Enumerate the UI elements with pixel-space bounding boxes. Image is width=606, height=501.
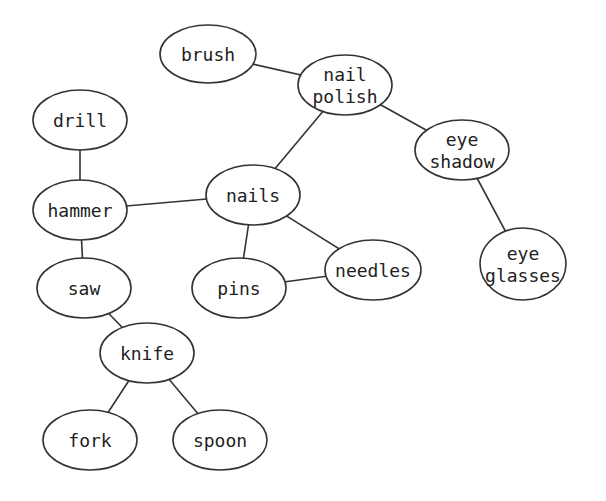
node-label: spoon bbox=[193, 430, 247, 451]
node-saw: saw bbox=[37, 258, 131, 318]
node-label: pins bbox=[217, 278, 260, 299]
node-label: nail bbox=[323, 64, 366, 85]
node-spoon: spoon bbox=[173, 410, 267, 470]
node-nail-polish: nailpolish bbox=[298, 55, 392, 115]
node-label: fork bbox=[68, 430, 112, 451]
nodes-layer: brushnailpolisheyeshadoweyeglassesdrillh… bbox=[33, 25, 566, 470]
node-label: shadow bbox=[429, 151, 494, 172]
node-fork: fork bbox=[43, 410, 137, 470]
node-knife: knife bbox=[100, 323, 194, 383]
node-label: nails bbox=[226, 185, 280, 206]
node-drill: drill bbox=[33, 90, 127, 150]
node-pins: pins bbox=[192, 258, 286, 318]
node-label: needles bbox=[335, 260, 411, 281]
node-label: knife bbox=[120, 343, 174, 364]
node-label: polish bbox=[312, 86, 377, 107]
node-label: hammer bbox=[47, 200, 112, 221]
node-label: brush bbox=[181, 44, 235, 65]
node-label: eye bbox=[507, 243, 540, 264]
node-eye-glasses: eyeglasses bbox=[480, 228, 566, 300]
node-nails: nails bbox=[206, 165, 300, 225]
node-eye-shadow: eyeshadow bbox=[415, 120, 509, 180]
node-label: saw bbox=[68, 278, 101, 299]
node-brush: brush bbox=[160, 25, 256, 83]
node-label: drill bbox=[53, 110, 107, 131]
graph-diagram: brushnailpolisheyeshadoweyeglassesdrillh… bbox=[0, 0, 606, 501]
node-hammer: hammer bbox=[33, 180, 127, 240]
node-needles: needles bbox=[325, 240, 421, 300]
node-label: eye bbox=[446, 129, 479, 150]
node-label: glasses bbox=[485, 265, 561, 286]
